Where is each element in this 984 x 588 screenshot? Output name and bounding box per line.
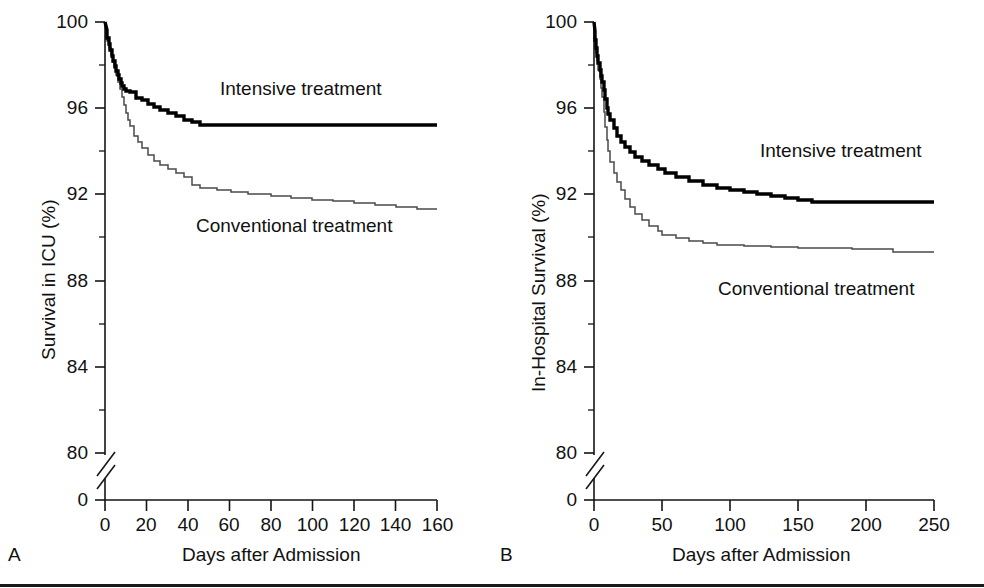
panel-b-ytick-96: 96 <box>511 97 577 119</box>
panel-a-conventional-label: Conventional treatment <box>196 215 393 236</box>
panel-a-letter: A <box>8 544 21 566</box>
panel-a-xtick-40: 40 <box>168 514 208 536</box>
panel-b-x-ticks <box>594 500 934 511</box>
panel-a-ytick-80: 80 <box>22 442 88 464</box>
panel-b-xtick-250: 250 <box>911 514 957 536</box>
panel-a-axis-break-icon <box>97 452 115 489</box>
panel-b-xtick-200: 200 <box>843 514 889 536</box>
panel-a-ytick-96: 96 <box>22 97 88 119</box>
panel-a-y-axis-label: Survival in ICU (%) <box>38 200 60 360</box>
panel-a-x-ticks <box>105 500 437 511</box>
panel-b-intensive-curve <box>594 22 934 202</box>
panel-b-xtick-150: 150 <box>775 514 821 536</box>
panel-b-ytick-80: 80 <box>511 442 577 464</box>
panel-b-xtick-50: 50 <box>640 514 684 536</box>
panel-b: Intensive treatment Conventional treatme… <box>584 22 934 511</box>
panel-b-xtick-100: 100 <box>707 514 753 536</box>
panel-b-conventional-label: Conventional treatment <box>718 278 915 299</box>
panel-b-y-minor-ticks <box>588 65 594 410</box>
panel-b-ytick-100: 100 <box>511 11 577 33</box>
panel-b-letter: B <box>500 544 513 566</box>
panel-a-y-major-ticks <box>95 22 105 500</box>
panel-a-xtick-120: 120 <box>332 514 377 536</box>
panel-a-xtick-60: 60 <box>209 514 249 536</box>
panel-b-axis-break-icon <box>586 452 604 489</box>
panel-a-ytick-0: 0 <box>22 489 88 511</box>
panel-a-ytick-100: 100 <box>22 11 88 33</box>
panel-a-intensive-curve <box>105 22 437 125</box>
panel-a-xtick-100: 100 <box>290 514 335 536</box>
panel-a: Intensive treatment Conventional treatme… <box>95 22 437 511</box>
panel-a-intensive-label: Intensive treatment <box>220 78 382 99</box>
panel-b-y-major-ticks <box>584 22 594 500</box>
panel-b-xtick-0: 0 <box>574 514 614 536</box>
panel-b-y-axis-label: In-Hospital Survival (%) <box>528 194 550 393</box>
panel-b-intensive-label: Intensive treatment <box>760 140 922 161</box>
panel-b-x-axis-label: Days after Admission <box>672 544 850 566</box>
panel-a-y-minor-ticks <box>99 65 105 410</box>
panel-a-xtick-0: 0 <box>85 514 125 536</box>
panel-a-xtick-20: 20 <box>126 514 166 536</box>
panel-a-xtick-160: 160 <box>415 514 460 536</box>
panel-a-conventional-curve <box>105 22 437 209</box>
panel-a-xtick-140: 140 <box>373 514 418 536</box>
panel-b-ytick-0: 0 <box>511 489 577 511</box>
panel-b-conventional-curve <box>594 22 934 252</box>
survival-curves-figure: Intensive treatment Conventional treatme… <box>0 0 984 588</box>
panel-a-xtick-80: 80 <box>251 514 291 536</box>
panel-a-x-axis-label: Days after Admission <box>182 544 360 566</box>
figure-bottom-rule <box>0 584 984 587</box>
